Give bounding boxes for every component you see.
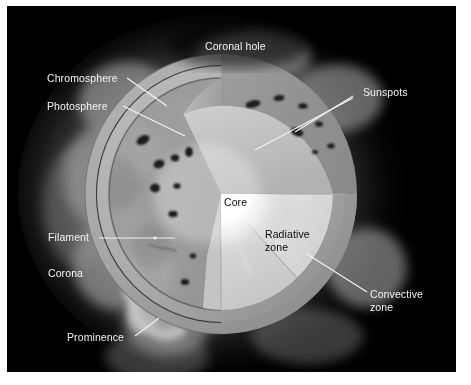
label-sunspots: Sunspots — [363, 86, 408, 99]
label-coronal-hole: Coronal hole — [205, 40, 266, 53]
image-panel: Chromosphere Photosphere Coronal hole Su… — [7, 6, 456, 372]
label-filament: Filament — [48, 231, 89, 244]
label-convective-zone-line2: zone — [370, 301, 393, 314]
label-photosphere: Photosphere — [47, 100, 108, 113]
label-radiative-zone-line1: Radiative — [265, 228, 310, 241]
label-core: Core — [224, 196, 247, 209]
core-spill — [153, 144, 261, 244]
label-radiative-zone-line2: zone — [265, 241, 288, 254]
label-chromosphere: Chromosphere — [47, 72, 118, 85]
sun-diagram — [7, 6, 456, 372]
label-corona: Corona — [48, 267, 83, 280]
label-prominence: Prominence — [67, 331, 124, 344]
figure-root: Chromosphere Photosphere Coronal hole Su… — [0, 0, 471, 385]
label-convective-zone-line1: Convective — [370, 288, 423, 301]
